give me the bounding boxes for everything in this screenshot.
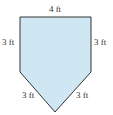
- label-right: 3 ft: [94, 37, 107, 47]
- label-top: 4 ft: [49, 4, 62, 14]
- label-bottom-right: 3 ft: [76, 90, 89, 100]
- label-left: 3 ft: [2, 37, 15, 47]
- label-bottom-left: 3 ft: [22, 90, 35, 100]
- pentagon-diagram: 4 ft 3 ft 3 ft 3 ft 3 ft: [0, 0, 113, 115]
